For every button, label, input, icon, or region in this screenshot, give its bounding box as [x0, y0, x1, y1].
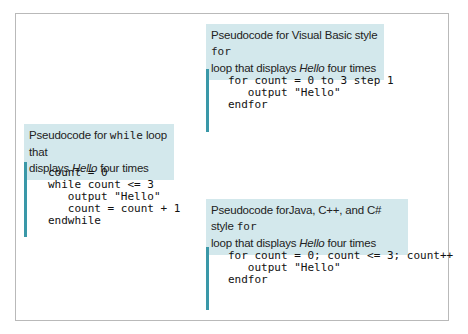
caption-text: loop that displays: [211, 237, 299, 249]
accent-bar: [206, 247, 209, 310]
caption-text: Pseudocode for: [29, 129, 110, 141]
caption-italic: Hello: [299, 62, 324, 74]
caption-vb-for-loop: Pseudocode for Visual Basic style forloo…: [206, 24, 384, 80]
caption-text: Pseudocode for Visual Basic style: [211, 29, 377, 41]
caption-c-style-for-loop: Pseudocode forJava, C++, and C# style fo…: [206, 199, 408, 255]
accent-bar: [24, 162, 27, 237]
code-while-loop: count = 0 while count <= 3 output "Hello…: [48, 167, 180, 227]
caption-text: loop that displays: [211, 62, 299, 74]
caption-text: four times: [324, 237, 375, 249]
accent-bar: [206, 69, 209, 132]
caption-text: four times: [324, 62, 375, 74]
caption-keyword: while: [110, 129, 143, 142]
caption-keyword: for: [211, 45, 231, 58]
caption-keyword: for: [237, 220, 257, 233]
code-c-style-for-loop: for count = 0; count <= 3; count++ outpu…: [228, 250, 453, 286]
caption-italic: Hello: [299, 237, 324, 249]
code-vb-for-loop: for count = 0 to 3 step 1 output "Hello"…: [228, 75, 394, 111]
